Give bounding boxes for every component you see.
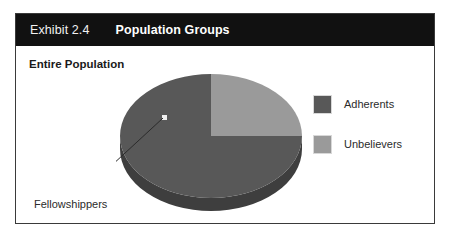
callout-label-fellowshippers: Fellowshippers	[34, 198, 107, 210]
legend-item-unbelievers: Unbelievers	[313, 124, 433, 164]
chart-subtitle: Entire Population	[29, 58, 124, 70]
pie-chart	[116, 54, 311, 219]
exhibit-header: Exhibit 2.4 Population Groups	[16, 14, 434, 46]
pie-chart-svg	[116, 54, 311, 219]
exhibit-frame: Exhibit 2.4 Population Groups Entire Pop…	[15, 13, 435, 224]
pie-slice-unbelievers	[211, 74, 302, 136]
chart-legend: Adherents Unbelievers	[313, 84, 433, 164]
pie-slice-fellowshippers	[162, 115, 167, 120]
legend-label-unbelievers: Unbelievers	[344, 138, 402, 150]
exhibit-number: Exhibit 2.4	[30, 23, 89, 37]
chart-body: Entire Population Fellowshippers Adheren…	[16, 46, 434, 223]
legend-item-adherents: Adherents	[313, 84, 433, 124]
legend-swatch-adherents	[313, 95, 332, 114]
legend-label-adherents: Adherents	[344, 98, 394, 110]
legend-swatch-unbelievers	[313, 135, 332, 154]
exhibit-title: Population Groups	[115, 23, 229, 37]
